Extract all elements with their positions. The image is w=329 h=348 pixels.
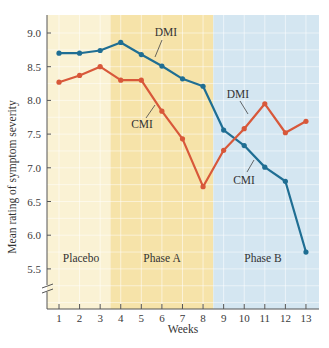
data-point	[303, 119, 308, 124]
data-point	[283, 179, 288, 184]
y-tick-label: 9.0	[27, 27, 41, 39]
data-point	[242, 126, 247, 131]
data-point	[221, 148, 226, 153]
data-point	[56, 51, 61, 56]
data-point	[180, 136, 185, 141]
data-point	[221, 127, 226, 132]
y-tick-label: 8.0	[27, 94, 41, 106]
data-point	[242, 143, 247, 148]
x-tick-label: 1	[56, 312, 62, 324]
x-tick-label: 9	[221, 312, 227, 324]
data-point	[200, 84, 205, 89]
y-tick-label: 7.0	[27, 162, 41, 174]
x-tick-label: 8	[200, 312, 206, 324]
data-point	[159, 109, 164, 114]
phase-band-placebo	[47, 15, 110, 309]
y-tick-label: 6.5	[27, 196, 41, 208]
series-label-dmi: DMI	[227, 88, 250, 100]
data-point	[139, 78, 144, 83]
series-label-dmi: DMI	[155, 26, 178, 38]
data-point	[98, 48, 103, 53]
phase-label-phase-a: Phase A	[143, 252, 181, 264]
data-point	[262, 101, 267, 106]
x-tick-label: 6	[159, 312, 165, 324]
data-point	[303, 249, 308, 254]
data-point	[200, 184, 205, 189]
phase-bands	[47, 15, 319, 309]
x-axis-title: Weeks	[168, 323, 199, 335]
data-point	[283, 130, 288, 135]
symptom-severity-chart: 9.08.58.07.57.06.56.05.51234567891011121…	[0, 0, 329, 348]
y-tick-label: 8.5	[27, 61, 41, 73]
series-label-cmi: CMI	[131, 118, 153, 130]
data-point	[139, 52, 144, 57]
data-point	[262, 165, 267, 170]
y-axis-title: Mean rating of symptom severity	[6, 100, 19, 254]
data-point	[77, 51, 82, 56]
y-tick-label: 5.5	[27, 263, 41, 275]
y-tick-label: 7.5	[27, 128, 41, 140]
x-tick-label: 10	[239, 312, 251, 324]
data-point	[118, 78, 123, 83]
x-tick-label: 13	[300, 312, 312, 324]
x-tick-label: 3	[97, 312, 103, 324]
series-label-cmi: CMI	[233, 174, 255, 186]
data-point	[77, 73, 82, 78]
data-point	[56, 80, 61, 85]
phase-label-phase-b: Phase B	[244, 252, 282, 264]
data-point	[180, 76, 185, 81]
phase-band-phase-b	[213, 15, 319, 309]
x-tick-label: 11	[260, 312, 271, 324]
data-point	[118, 40, 123, 45]
phase-label-placebo: Placebo	[63, 252, 100, 264]
data-point	[98, 64, 103, 69]
data-point	[159, 63, 164, 68]
y-tick-label: 6.0	[27, 229, 41, 241]
x-tick-label: 12	[280, 312, 291, 324]
x-tick-label: 5	[139, 312, 145, 324]
phase-labels: PlaceboPhase APhase B	[63, 252, 282, 264]
x-tick-label: 4	[118, 312, 124, 324]
x-tick-label: 2	[77, 312, 83, 324]
